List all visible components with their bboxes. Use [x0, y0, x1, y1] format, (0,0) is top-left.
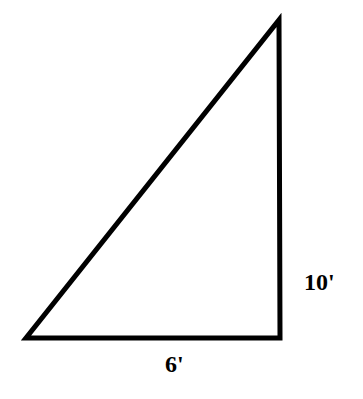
base-side-label: 6': [165, 352, 184, 376]
right-triangle-diagram: [0, 0, 363, 399]
vertical-side-label: 10': [304, 270, 335, 294]
right-triangle: [26, 20, 280, 338]
